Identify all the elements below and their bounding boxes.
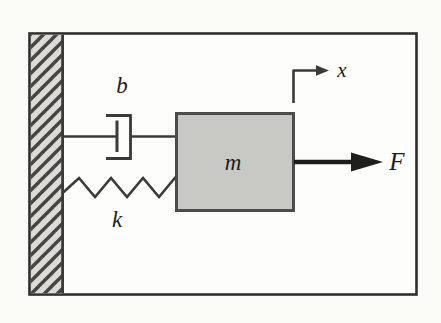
wall-hatching [31,35,63,293]
figure-canvas: b k m x F [0,0,441,323]
fixed-wall [31,35,63,293]
spring-label: k [112,207,123,232]
force-label: F [388,148,405,175]
mass-spring-damper-diagram: b k m x F [0,0,441,323]
mass: m [177,114,294,211]
mass-label: m [225,150,242,175]
displacement-label: x [336,58,347,82]
damper-label: b [116,73,128,98]
